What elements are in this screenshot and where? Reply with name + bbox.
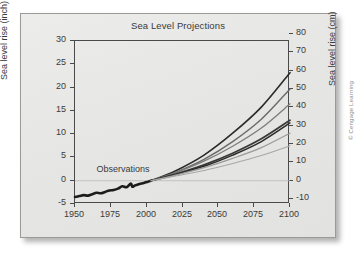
y-axis-right-tick-label: 10 — [296, 155, 326, 165]
credit-text: © Cengage Learning — [348, 81, 354, 140]
y-axis-left-tick-label: 15 — [40, 104, 66, 114]
y-axis-left-tick-label: 25 — [40, 57, 66, 67]
y-axis-left-tick-label: -5 — [40, 197, 66, 207]
figure-card: Sea Level Projections Sea level rise (in… — [20, 13, 336, 238]
projection-line — [151, 73, 290, 181]
x-axis-tick-label: 2025 — [162, 209, 202, 219]
y-axis-left-tick-label: 20 — [40, 81, 66, 91]
y-axis-right-tick-label: 30 — [296, 119, 326, 129]
y-axis-right-tick-label: 60 — [296, 64, 326, 74]
x-axis-tick-label: 2100 — [269, 209, 309, 219]
y-axis-right-tick-label: 0 — [296, 174, 326, 184]
y-axis-right-tick-label: 70 — [296, 45, 326, 55]
y-axis-left-tick-label: 0 — [40, 174, 66, 184]
x-axis-tick-label: 2050 — [197, 209, 237, 219]
y-axis-right-tick-label: 20 — [296, 137, 326, 147]
chart-title: Sea Level Projections — [21, 20, 335, 31]
figure-root: Sea Level Projections Sea level rise (in… — [0, 0, 364, 264]
y-axis-right-tick-label: 50 — [296, 82, 326, 92]
x-axis-tick-label: 1975 — [90, 209, 130, 219]
x-axis-tick-label: 1950 — [54, 209, 94, 219]
y-axis-right-tick-label: 40 — [296, 100, 326, 110]
observations-line — [75, 181, 151, 197]
x-axis-tick-label: 2000 — [126, 209, 166, 219]
y-axis-left-tick-label: 5 — [40, 150, 66, 160]
y-axis-right-tick — [289, 33, 293, 34]
y-axis-left-title: Sea level rise (inch) — [0, 1, 9, 80]
x-axis-tick-label: 2075 — [233, 209, 273, 219]
y-axis-left-tick-label: 10 — [40, 127, 66, 137]
y-axis-right-tick-label: 80 — [296, 27, 326, 37]
plot-svg — [74, 40, 291, 205]
plot-annotation: Observations — [97, 164, 150, 174]
y-axis-right-tick-label: -10 — [296, 192, 326, 202]
plot-area: Observations — [74, 40, 289, 203]
y-axis-left-tick-label: 30 — [40, 34, 66, 44]
y-axis-right-title: Sea level rise (cm) — [327, 11, 337, 86]
